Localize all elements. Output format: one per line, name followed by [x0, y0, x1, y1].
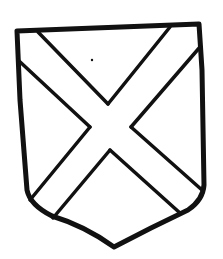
shield-saltire-icon: [0, 0, 223, 259]
shield-outline: [17, 24, 204, 247]
